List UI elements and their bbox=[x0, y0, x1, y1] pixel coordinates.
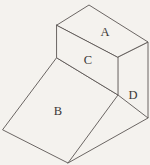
figure-canvas: A D C B bbox=[0, 0, 150, 165]
face-label-b: B bbox=[54, 104, 62, 118]
face-label-a: A bbox=[100, 25, 109, 39]
isometric-figure: A D C B bbox=[0, 0, 150, 165]
face-label-c: C bbox=[84, 53, 92, 67]
face-label-d: D bbox=[128, 88, 137, 102]
